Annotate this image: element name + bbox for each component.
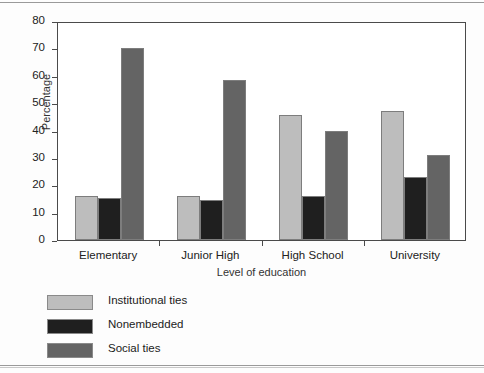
y-tick-label: 20 [32,178,45,190]
bar [325,131,348,241]
bar [223,80,246,240]
legend-label: Social ties [108,342,160,354]
legend: Institutional tiesNonembeddedSocial ties [47,292,347,364]
y-tick-label: 80 [32,14,45,26]
x-tick-mark [159,241,160,246]
bar-group [263,23,365,240]
x-tick-label: University [364,249,466,261]
bar-group [160,23,262,240]
legend-item: Social ties [47,340,347,364]
bar [404,177,427,240]
legend-item: Institutional ties [47,292,347,316]
bar [98,198,121,240]
x-tick-label: High School [262,249,364,261]
bar [75,196,98,240]
bar [200,200,223,240]
x-axis-title: Level of education [57,266,466,278]
figure-top-rule [0,2,484,3]
legend-swatch [47,343,93,358]
legend-label: Institutional ties [108,294,187,306]
y-tick-label: 0 [39,233,45,245]
bar-group [58,23,160,240]
bar [302,196,325,240]
x-tick-mark [364,241,365,246]
y-tick-label: 70 [32,41,45,53]
plot-area [57,22,466,241]
y-tick-label: 10 [32,206,45,218]
bars-container [58,23,465,240]
bar [121,48,144,240]
bar [381,111,404,240]
figure-bottom-rule-secondary [0,367,484,368]
y-tick-label: 60 [32,69,45,81]
bar [427,155,450,240]
y-tick-label: 40 [32,124,45,136]
bar-group [365,23,467,240]
x-tick-mark [262,241,263,246]
legend-item: Nonembedded [47,316,347,340]
legend-swatch [47,319,93,334]
legend-swatch [47,295,93,310]
y-tick-label: 30 [32,151,45,163]
y-tick-mark [52,241,57,242]
figure: Percentage 01020304050607080 ElementaryJ… [0,0,484,373]
bar [279,115,302,240]
legend-label: Nonembedded [108,318,183,330]
figure-bottom-rule [0,365,484,366]
x-tick-label: Junior High [159,249,261,261]
x-tick-label: Elementary [57,249,159,261]
y-tick-label: 50 [32,96,45,108]
bar [177,196,200,240]
